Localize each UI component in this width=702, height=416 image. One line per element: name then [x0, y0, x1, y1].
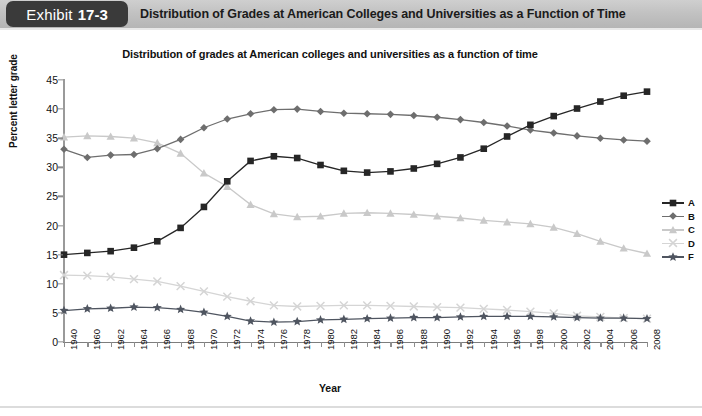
- data-point: [200, 124, 208, 132]
- legend-item-b[interactable]: B: [662, 210, 702, 224]
- legend-marker-star-icon: [662, 251, 684, 263]
- data-point: [573, 132, 581, 140]
- data-point: [247, 158, 254, 165]
- y-tick-label: 40: [46, 103, 58, 115]
- data-point: [457, 154, 464, 161]
- data-point: [620, 92, 627, 99]
- data-point: [224, 178, 231, 185]
- legend-marker-x-icon: [662, 237, 684, 249]
- data-point: [129, 302, 138, 311]
- data-point: [131, 244, 138, 251]
- y-tick-label: 30: [46, 161, 58, 173]
- data-point: [550, 113, 557, 120]
- data-point: [294, 155, 301, 162]
- data-point: [411, 165, 418, 172]
- x-axis-label: Year: [0, 382, 660, 394]
- data-point: [386, 313, 395, 322]
- data-point: [363, 314, 372, 323]
- x-tick-mark: [624, 342, 625, 347]
- data-point: [293, 105, 301, 113]
- legend-item-f[interactable]: F: [662, 250, 702, 264]
- y-tick-label: 15: [46, 249, 58, 261]
- data-point: [271, 153, 278, 160]
- data-point: [434, 161, 441, 168]
- y-tick-mark: [58, 196, 63, 197]
- chart-title: Distribution of grades at American colle…: [0, 48, 660, 60]
- data-point: [223, 312, 232, 321]
- series-line-d: [64, 275, 647, 319]
- x-tick-mark: [157, 342, 158, 347]
- exhibit-badge-number: 17-3: [78, 6, 108, 23]
- legend-item-a[interactable]: A: [662, 196, 702, 210]
- data-point: [177, 136, 185, 144]
- data-point: [176, 305, 185, 314]
- exhibit-header-bar: Exhibit 17-3 Distribution of Grades at A…: [0, 0, 702, 28]
- data-point: [317, 108, 325, 116]
- data-point: [387, 168, 394, 175]
- data-point: [223, 115, 231, 123]
- x-tick-mark: [64, 342, 65, 347]
- x-tick-mark: [134, 342, 135, 347]
- legend-marker-square-icon: [662, 197, 684, 209]
- x-tick-mark: [460, 342, 461, 347]
- x-tick-mark: [530, 342, 531, 347]
- data-point: [107, 151, 115, 159]
- legend-label: A: [688, 197, 695, 208]
- chart-series-layer: [64, 80, 647, 342]
- x-tick-mark: [367, 342, 368, 347]
- data-point: [480, 119, 488, 127]
- y-tick-mark: [58, 79, 63, 80]
- data-point: [177, 149, 185, 156]
- legend-marker-triangle-icon: [662, 224, 684, 236]
- y-tick-mark: [58, 312, 63, 313]
- data-point: [363, 110, 371, 118]
- data-point: [597, 98, 604, 105]
- series-line-a: [64, 92, 647, 255]
- figure-bottom-divider: [0, 406, 702, 408]
- exhibit-badge-word: Exhibit: [26, 6, 72, 23]
- data-point: [410, 112, 418, 120]
- data-point: [293, 317, 302, 326]
- data-point: [270, 106, 278, 114]
- data-point: [316, 315, 325, 324]
- x-tick-mark: [321, 342, 322, 347]
- y-tick-label: 45: [46, 74, 58, 86]
- data-point: [572, 313, 581, 322]
- legend-marker-diamond-icon: [662, 210, 684, 222]
- data-point: [199, 308, 208, 317]
- data-point: [409, 313, 418, 322]
- exhibit-figure: Exhibit 17-3 Distribution of Grades at A…: [0, 0, 702, 416]
- data-point: [153, 303, 162, 312]
- legend-item-d[interactable]: D: [662, 237, 702, 251]
- y-axis-ticks: 051015202530354045: [30, 80, 58, 342]
- x-tick-mark: [274, 342, 275, 347]
- x-tick-mark: [600, 342, 601, 347]
- y-tick-label: 10: [46, 278, 58, 290]
- data-point: [433, 113, 441, 121]
- data-point: [480, 145, 487, 152]
- data-point: [84, 154, 92, 162]
- y-tick-label: 20: [46, 220, 58, 232]
- data-point: [83, 304, 92, 313]
- y-tick-mark: [58, 341, 63, 342]
- legend-item-c[interactable]: C: [662, 223, 702, 237]
- chart-legend: ABCDF: [662, 196, 702, 264]
- y-tick-mark: [58, 167, 63, 168]
- y-tick-label: 25: [46, 190, 58, 202]
- data-point: [503, 122, 511, 130]
- chart-area: Distribution of grades at American colle…: [0, 30, 702, 408]
- exhibit-header-title: Distribution of Grades at American Colle…: [140, 0, 626, 28]
- data-point: [526, 312, 535, 321]
- y-tick-label: 35: [46, 132, 58, 144]
- legend-label: B: [688, 211, 695, 222]
- y-tick-mark: [58, 108, 63, 109]
- y-tick-mark: [58, 138, 63, 139]
- legend-label: D: [688, 238, 695, 249]
- legend-label: F: [688, 251, 694, 262]
- series-d: [60, 271, 651, 322]
- data-point: [270, 210, 278, 217]
- data-point: [246, 316, 255, 325]
- data-point: [550, 129, 558, 137]
- data-point: [130, 151, 138, 159]
- data-point: [620, 136, 628, 144]
